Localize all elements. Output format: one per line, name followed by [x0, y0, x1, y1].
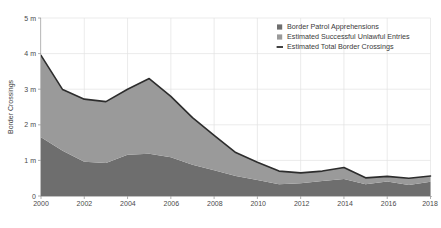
chart-legend: Border Patrol Apprehensions Estimated Su… [277, 22, 410, 51]
y-tick-label-5m: 5 m [24, 15, 36, 22]
x-tick-label-2012: 2012 [294, 200, 310, 207]
series-areas [41, 55, 431, 196]
x-tick-label-2010: 2010 [250, 200, 266, 207]
legend-label-estimated-total-border-crossings: Estimated Total Border Crossings [287, 42, 394, 51]
x-tick-label-2016: 2016 [381, 200, 397, 207]
legend-label-estimated-successful-unlawful-entries: Estimated Successful Unlawful Entries [287, 32, 410, 41]
y-tick-labels: 5 m 4 m 3 m 2 m 1 m 0 [24, 15, 36, 200]
x-tick-labels: 2000 2002 2004 2006 2008 2010 2012 2014 … [33, 200, 438, 207]
y-tick-label-2m: 2 m [24, 121, 36, 128]
x-tick-label-2018: 2018 [422, 200, 438, 207]
x-tick-label-2002: 2002 [77, 200, 93, 207]
legend-label-border-patrol-apprehensions: Border Patrol Apprehensions [287, 22, 379, 31]
y-tick-label-3m: 3 m [24, 86, 36, 93]
y-axis-title: Border Crossings [7, 79, 15, 134]
y-tick-label-4m: 4 m [24, 50, 36, 57]
x-tick-label-2000: 2000 [33, 200, 49, 207]
x-tick-label-2004: 2004 [120, 200, 136, 207]
x-tick-label-2008: 2008 [207, 200, 223, 207]
y-tick-label-1m: 1 m [24, 157, 36, 164]
y-tick-label-0: 0 [32, 193, 36, 200]
x-tick-label-2014: 2014 [337, 200, 353, 207]
area-chart: 5 m 4 m 3 m 2 m 1 m 0 2000 2002 2004 200… [0, 0, 441, 228]
chart-svg: 5 m 4 m 3 m 2 m 1 m 0 2000 2002 2004 200… [0, 0, 441, 228]
x-tick-label-2006: 2006 [164, 200, 180, 207]
legend-swatch-border-patrol-apprehensions [277, 24, 282, 29]
legend-swatch-estimated-successful-unlawful-entries [277, 34, 282, 39]
